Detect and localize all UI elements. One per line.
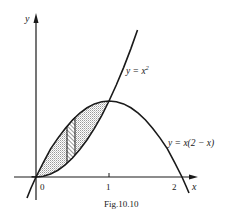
- label-y-equals-x-squared: y = x2: [125, 64, 150, 76]
- y-axis-label: y: [24, 13, 30, 24]
- tick-label-0: 0: [40, 182, 45, 192]
- x-axis-label: x: [191, 181, 197, 192]
- label-y-equals-x-two-minus-x: y = x(2 − x): [167, 138, 214, 149]
- tick-label-2: 2: [172, 182, 177, 192]
- x-axis-arrow-icon: [189, 175, 198, 180]
- tick-label-1: 1: [106, 182, 111, 192]
- y-axis-arrow-icon: [34, 13, 39, 23]
- figure-caption: Fig.10.10: [104, 199, 139, 209]
- figure-10-10: y x 0 1 2 y = x2 y = x(2 − x) Fig.10.10: [0, 0, 230, 216]
